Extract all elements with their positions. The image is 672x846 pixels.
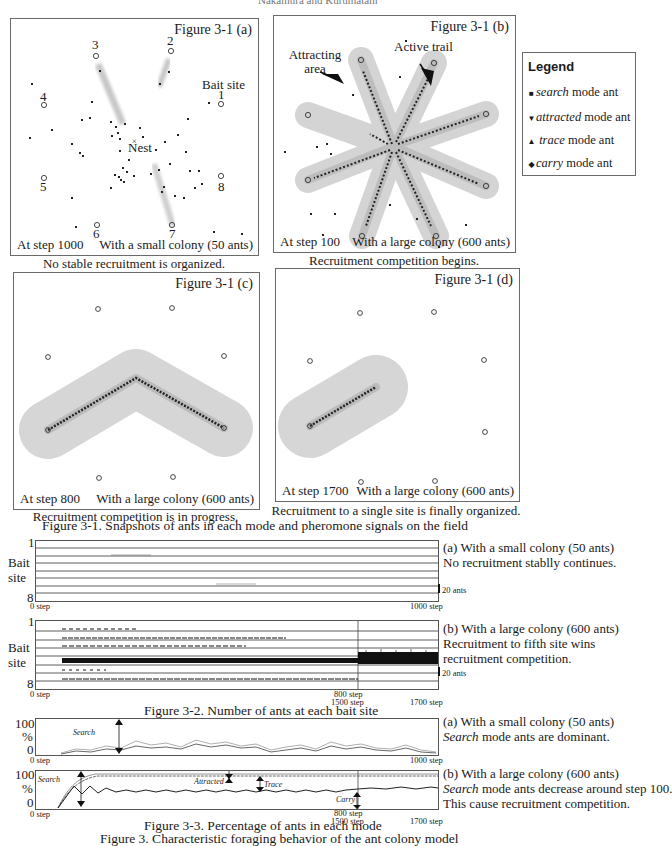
site-number-4: 4 [40, 89, 47, 105]
scale-bar [438, 667, 440, 676]
x-start-label: 0 step [30, 809, 50, 819]
site-number-5: 5 [40, 179, 47, 195]
figure-3-1a-field: × [11, 19, 258, 255]
desc-line: No recruitment stablly continues. [443, 555, 616, 570]
legend-item-attracted: ▼attracted mode ant [527, 110, 630, 125]
desc-italic: Search [443, 729, 479, 744]
desc-line: Search mode ants are dominant. [443, 729, 614, 744]
x-end-label: 1700 step [410, 816, 443, 826]
site-number-1: 1 [218, 87, 225, 103]
running-header: Nakamura and Kurumatani [258, 0, 378, 6]
legend-mode: trace [539, 133, 565, 147]
attracting-area-label: Attracting area [280, 48, 350, 76]
figure-3-2-caption: Figure 3-2. Number of ants at each bait … [144, 703, 378, 719]
figure-3-1b-panel: Figure 3-1 (b) Attracting area Active tr… [273, 15, 516, 253]
legend-mode: search [536, 85, 569, 99]
legend-suffix: mode ant [565, 133, 614, 147]
site-number-2: 2 [167, 33, 174, 49]
step-label: At step 800 [20, 491, 80, 507]
panel-title: Figure 3-1 (d) [434, 272, 513, 288]
annotation-search: Search [38, 775, 60, 784]
x-end-label: 1000 step [410, 601, 443, 611]
legend-suffix: mode ant [569, 85, 618, 99]
legend-mode: attracted [536, 110, 581, 124]
colony-label: With a large colony (600 ants) [96, 491, 254, 507]
colony-label: With a small colony (50 ants) [99, 237, 253, 253]
legend-item-search: ■search mode ant [527, 85, 618, 100]
triangle-up-icon: ▲ [527, 137, 536, 146]
figure-3-2a-description: (a) With a small colony (50 ants) No rec… [443, 540, 616, 570]
desc-line: (a) With a small colony (50 ants) [443, 714, 614, 729]
annotation-trace: Trace [264, 780, 282, 789]
desc-line: This cause recruitment competition. [443, 796, 672, 811]
nest-label: Nest [128, 140, 152, 156]
figure-3-3b-description: (b) With a large colony (600 ants) Searc… [443, 766, 672, 811]
figure-3-caption: Figure 3. Characteristic foraging behavi… [100, 831, 458, 846]
y-top-label: 1 [28, 535, 35, 551]
legend-item-trace: ▲ trace mode ant [527, 133, 614, 148]
legend-item-carry: ◆carry mode ant [527, 156, 612, 171]
desc-italic: Search [443, 781, 479, 796]
annotation-search: Search [73, 728, 95, 737]
scale-label: 20 ants [442, 668, 466, 678]
legend-title: Legend [528, 59, 574, 74]
panel-title: Figure 3-1 (a) [174, 22, 252, 38]
x-start-label: 0 step [30, 689, 50, 699]
step-label: At step 1000 [17, 237, 83, 253]
annotation-carry: Carry [336, 795, 355, 804]
x-end-label: 1000 step [410, 755, 443, 765]
x-start-label: 0 step [30, 601, 50, 611]
figure-3-3b-chart: Search Attracted Trace Carry [35, 770, 439, 810]
desc-rest: mode ants are dominant. [479, 729, 610, 744]
y-axis-label: Bait site [8, 640, 34, 670]
annotation-attracted: Attracted [194, 777, 224, 786]
y-top-label: 1 [28, 614, 35, 630]
x-start-label: 0 step [30, 755, 50, 765]
desc-line: Recruitment to fifth site wins [443, 636, 619, 651]
square-icon: ■ [527, 89, 536, 98]
figure-3-3a-description: (a) With a small colony (50 ants) Search… [443, 714, 614, 744]
x-end-label: 1700 step [410, 697, 443, 707]
triangle-down-icon: ▼ [527, 114, 536, 123]
figure-3-1c-field [14, 273, 259, 509]
active-trail-label: Active trail [394, 39, 453, 55]
site-number-3: 3 [92, 37, 99, 53]
y-axis-label: Bait site [8, 555, 34, 585]
legend-suffix: mode ant [581, 110, 630, 124]
figure-3-3a-chart: Search [35, 718, 439, 756]
step-label: At step 100 [280, 234, 340, 250]
desc-line: (a) With a small colony (50 ants) [443, 540, 616, 555]
figure-3-2b-chart [35, 620, 439, 690]
legend-suffix: mode ant [563, 156, 612, 170]
desc-line: (b) With a large colony (600 ants) [443, 766, 672, 781]
step-label: At step 1700 [282, 483, 348, 499]
scale-bar [438, 584, 440, 593]
colony-label: With a large colony (600 ants) [352, 234, 510, 250]
desc-rest: mode ants decrease around step 100. [479, 781, 672, 796]
legend: Legend ■search mode ant ▼attracted mode … [522, 52, 636, 176]
figure-3-2a-chart [35, 540, 439, 602]
panel-title: Figure 3-1 (c) [175, 276, 253, 292]
figure-3-1a-subcaption: No stable recruitment is organized. [10, 256, 258, 272]
desc-line: (b) With a large colony (600 ants) [443, 621, 619, 636]
figure-3-2b-description: (b) With a large colony (600 ants) Recru… [443, 621, 619, 666]
figure-3-1a-panel: × [10, 18, 259, 256]
figure-3-1b-subcaption: Recruitment competition begins. [273, 253, 515, 269]
colony-label: With a large colony (600 ants) [356, 483, 514, 499]
desc-line: Search mode ants decrease around step 10… [443, 781, 672, 796]
figure-3-1d-subcaption: Recruitment to a single site is finally … [270, 503, 522, 519]
diamond-icon: ◆ [527, 160, 536, 169]
desc-line: recruitment competition. [443, 651, 619, 666]
scale-label: 20 ants [442, 585, 466, 595]
figure-3-1d-field [276, 269, 519, 501]
legend-mode: carry [536, 156, 563, 170]
site-number-8: 8 [218, 179, 225, 195]
figure-3-1d-panel: Figure 3-1 (d) At step 1700 With a large… [275, 268, 520, 502]
figure-3-1-caption: Figure 3-1. Snapshots of ants in each mo… [42, 518, 468, 534]
figure-3-1c-panel: Figure 3-1 (c) At step 800 With a large … [13, 272, 260, 510]
panel-title: Figure 3-1 (b) [430, 19, 509, 35]
